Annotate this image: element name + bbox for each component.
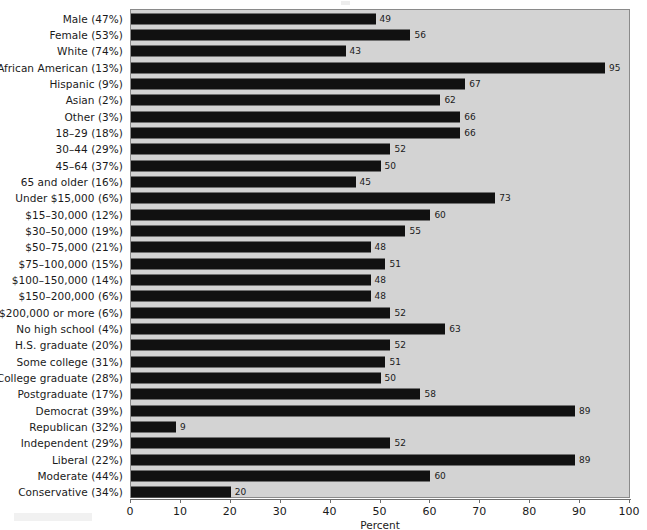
x-tick bbox=[380, 499, 381, 503]
x-tick-label: 20 bbox=[223, 505, 237, 518]
category-label: 30–44 (29%) bbox=[56, 143, 123, 155]
bar-value-label: 55 bbox=[405, 226, 420, 236]
x-tick bbox=[529, 499, 530, 503]
bar bbox=[131, 405, 575, 416]
bar bbox=[131, 160, 381, 171]
bar-value-label: 60 bbox=[430, 471, 445, 481]
bar-value-label: 48 bbox=[371, 291, 386, 301]
bar-value-label: 73 bbox=[495, 193, 510, 203]
bar-value-label: 89 bbox=[575, 406, 590, 416]
bar bbox=[131, 274, 371, 285]
x-tick bbox=[429, 499, 430, 503]
x-tick bbox=[479, 499, 480, 503]
bar bbox=[131, 193, 495, 204]
bar-row: Democrat (39%)89 bbox=[0, 402, 647, 418]
category-label: Male (47%) bbox=[63, 13, 123, 25]
bar-row: Conservative (34%)20 bbox=[0, 484, 647, 500]
x-tick bbox=[130, 499, 131, 503]
x-tick-label: 50 bbox=[373, 505, 387, 518]
bar bbox=[131, 111, 460, 122]
bar-row: Under $15,000 (6%)73 bbox=[0, 190, 647, 206]
bar-row: Male (47%)49 bbox=[0, 11, 647, 27]
x-tick-label: 90 bbox=[572, 505, 586, 518]
bar-value-label: 50 bbox=[381, 373, 396, 383]
bar-row: Hispanic (9%)67 bbox=[0, 76, 647, 92]
category-label: Other (3%) bbox=[64, 111, 123, 123]
x-axis-line bbox=[130, 499, 631, 500]
x-tick bbox=[230, 499, 231, 503]
bar-value-label: 95 bbox=[605, 63, 620, 73]
bar-value-label: 50 bbox=[381, 161, 396, 171]
bar-row: $200,000 or more (6%)52 bbox=[0, 304, 647, 320]
bar-row: Postgraduate (17%)58 bbox=[0, 386, 647, 402]
bar bbox=[131, 389, 420, 400]
bar-row: College graduate (28%)50 bbox=[0, 370, 647, 386]
category-label: Republican (32%) bbox=[29, 421, 123, 433]
x-tick-label: 100 bbox=[619, 505, 640, 518]
bar-row: Some college (31%)51 bbox=[0, 353, 647, 369]
bar bbox=[131, 95, 440, 106]
bar-row: Asian (2%)62 bbox=[0, 92, 647, 108]
category-label: College graduate (28%) bbox=[0, 372, 123, 384]
category-label: Postgraduate (17%) bbox=[18, 388, 124, 400]
bottom-left-artifact bbox=[14, 513, 92, 521]
bar-row: Republican (32%)9 bbox=[0, 419, 647, 435]
bar-row: 30–44 (29%)52 bbox=[0, 141, 647, 157]
bar bbox=[131, 209, 430, 220]
category-label: White (74%) bbox=[57, 45, 123, 57]
bar bbox=[131, 46, 346, 57]
bar bbox=[131, 30, 410, 41]
category-label: Asian (2%) bbox=[66, 94, 123, 106]
bar bbox=[131, 242, 371, 253]
category-label: African American (13%) bbox=[0, 62, 123, 74]
category-label: $15–30,000 (12%) bbox=[25, 209, 123, 221]
category-label: H.S. graduate (20%) bbox=[15, 339, 123, 351]
category-label: 45–64 (37%) bbox=[56, 160, 123, 172]
bar bbox=[131, 340, 390, 351]
bar-row: $30–50,000 (19%)55 bbox=[0, 223, 647, 239]
bar bbox=[131, 13, 376, 24]
bar bbox=[131, 356, 385, 367]
category-label: Under $15,000 (6%) bbox=[15, 192, 123, 204]
bar-value-label: 56 bbox=[410, 30, 425, 40]
x-tick-label: 60 bbox=[422, 505, 436, 518]
bar-value-label: 52 bbox=[390, 144, 405, 154]
bar bbox=[131, 225, 405, 236]
bar-value-label: 66 bbox=[460, 112, 475, 122]
bar-value-label: 48 bbox=[371, 242, 386, 252]
bar bbox=[131, 487, 231, 498]
bar-row: 65 and older (16%)45 bbox=[0, 174, 647, 190]
bar-row: $50–75,000 (21%)48 bbox=[0, 239, 647, 255]
bar-value-label: 9 bbox=[176, 422, 186, 432]
category-label: Liberal (22%) bbox=[52, 454, 123, 466]
bar-value-label: 48 bbox=[371, 275, 386, 285]
bar-value-label: 62 bbox=[440, 95, 455, 105]
bar-row: H.S. graduate (20%)52 bbox=[0, 337, 647, 353]
category-label: $150–200,000 (6%) bbox=[19, 290, 123, 302]
bar-value-label: 63 bbox=[445, 324, 460, 334]
bar-row: $75–100,000 (15%)51 bbox=[0, 255, 647, 271]
bar bbox=[131, 323, 445, 334]
x-tick-label: 10 bbox=[173, 505, 187, 518]
x-tick bbox=[629, 499, 630, 503]
bar-row: $150–200,000 (6%)48 bbox=[0, 288, 647, 304]
category-label: Conservative (34%) bbox=[18, 486, 123, 498]
bar bbox=[131, 144, 390, 155]
bar-value-label: 20 bbox=[231, 487, 246, 497]
bar-value-label: 60 bbox=[430, 210, 445, 220]
bar-row: 18–29 (18%)66 bbox=[0, 125, 647, 141]
bar-value-label: 67 bbox=[465, 79, 480, 89]
bar-row: $15–30,000 (12%)60 bbox=[0, 206, 647, 222]
category-label: $30–50,000 (19%) bbox=[25, 225, 123, 237]
x-tick-label: 40 bbox=[323, 505, 337, 518]
bar bbox=[131, 421, 176, 432]
category-label: Hispanic (9%) bbox=[49, 78, 123, 90]
bar-row: $100–150,000 (14%)48 bbox=[0, 272, 647, 288]
x-tick bbox=[280, 499, 281, 503]
category-label: $75–100,000 (15%) bbox=[19, 258, 123, 270]
x-tick-label: 70 bbox=[472, 505, 486, 518]
bar-value-label: 52 bbox=[390, 340, 405, 350]
bar-value-label: 89 bbox=[575, 455, 590, 465]
bar-value-label: 51 bbox=[385, 259, 400, 269]
horizontal-bar-chart: Male (47%)49Female (53%)56White (74%)43A… bbox=[0, 0, 647, 530]
